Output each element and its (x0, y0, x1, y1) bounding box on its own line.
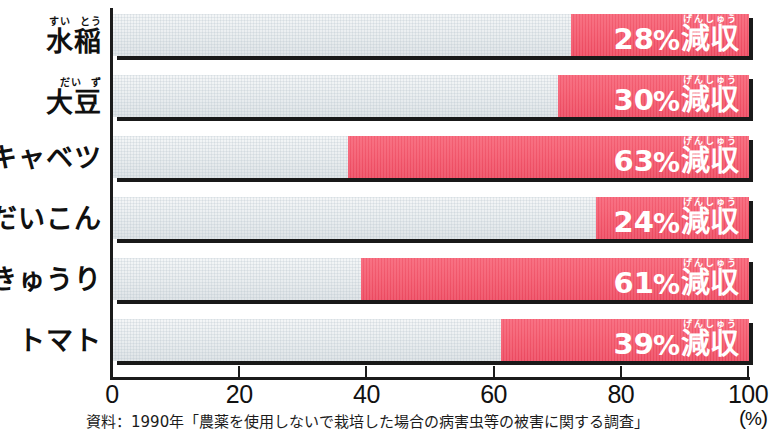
bar-row: すいとう水稲28%げんしゅう減収 (0, 14, 773, 56)
bar-value-suffix-text: 減収 (681, 208, 739, 237)
x-axis-tick (620, 366, 622, 378)
bar-value-label: 28%げんしゅう減収 (614, 15, 739, 54)
bar-fill: 24%げんしゅう減収 (596, 197, 749, 239)
bar-fill: 39%げんしゅう減収 (501, 319, 749, 361)
bar-fill: 61%げんしゅう減収 (361, 258, 749, 300)
category-label: だいこん (0, 205, 102, 232)
bar-value-suffix-text: 減収 (681, 330, 739, 359)
bar-track: 28%げんしゅう減収 (113, 14, 749, 56)
x-axis-tick (493, 366, 495, 378)
category-label: だいず大豆 (0, 77, 102, 116)
bar-track: 61%げんしゅう減収 (113, 258, 749, 300)
bar-chart: すいとう水稲28%げんしゅう減収だいず大豆30%げんしゅう減収キャベツ63%げん… (0, 0, 773, 430)
x-axis-tick (747, 366, 749, 378)
bar-row: キャベツ63%げんしゅう減収 (0, 136, 773, 178)
bar-value-percent-sign: % (653, 149, 680, 176)
bar-value-suffix-text: 減収 (681, 25, 739, 54)
category-label: すいとう水稲 (0, 16, 102, 55)
bar-value-number: 63 (614, 147, 654, 176)
category-label-text: 水稲 (46, 26, 102, 57)
bar-value-suffix-group: げんしゅう減収 (681, 320, 739, 359)
bar-value-suffix-group: げんしゅう減収 (681, 259, 739, 298)
x-axis-line (110, 377, 750, 380)
bar-row: きゅうり61%げんしゅう減収 (0, 258, 773, 300)
category-label-text: トマト (18, 325, 102, 356)
bar-value-suffix-group: げんしゅう減収 (681, 76, 739, 115)
x-axis-tick-label: 40 (353, 380, 380, 409)
bar-fill: 28%げんしゅう減収 (571, 14, 749, 56)
bar-value-number: 61 (614, 269, 654, 298)
bar-value-label: 30%げんしゅう減収 (614, 76, 739, 115)
bar-value-label: 24%げんしゅう減収 (614, 198, 739, 237)
bar-row: だいず大豆30%げんしゅう減収 (0, 75, 773, 117)
bar-value-suffix-text: 減収 (681, 86, 739, 115)
bar-value-percent-sign: % (653, 210, 680, 237)
bar-track: 24%げんしゅう減収 (113, 197, 749, 239)
bar-value-suffix-text: 減収 (681, 147, 739, 176)
bar-value-suffix-group: げんしゅう減収 (681, 15, 739, 54)
bar-value-label: 63%げんしゅう減収 (614, 137, 739, 176)
bar-value-label: 39%げんしゅう減収 (614, 320, 739, 359)
x-axis-tick-label: 100 (728, 380, 768, 409)
bar-fill: 63%げんしゅう減収 (348, 136, 749, 178)
x-axis-unit-label: (%) (739, 406, 767, 430)
source-note: 資料：1990年「農薬を使用しないで栽培した場合の病害虫等の被害に関する調査」 (86, 410, 649, 430)
x-axis-tick (365, 366, 367, 378)
bar-value-number: 28 (614, 25, 654, 54)
category-label-text: きゅうり (0, 264, 102, 295)
bar-value-number: 30 (614, 86, 654, 115)
bar-value-suffix-group: げんしゅう減収 (681, 198, 739, 237)
x-axis-tick-label: 20 (226, 380, 253, 409)
x-axis-tick-label: 60 (480, 380, 507, 409)
bar-value-suffix-text: 減収 (681, 269, 739, 298)
x-axis-tick-label: 80 (607, 380, 634, 409)
category-label: キャベツ (0, 144, 102, 171)
bar-value-number: 24 (614, 208, 654, 237)
bar-value-label: 61%げんしゅう減収 (614, 259, 739, 298)
bar-value-percent-sign: % (653, 332, 680, 359)
category-label: トマト (0, 327, 102, 354)
bar-fill: 30%げんしゅう減収 (558, 75, 749, 117)
unit-paren-close: ) (761, 406, 767, 429)
bar-row: トマト39%げんしゅう減収 (0, 319, 773, 361)
bar-row: だいこん24%げんしゅう減収 (0, 197, 773, 239)
bar-track: 39%げんしゅう減収 (113, 319, 749, 361)
bar-value-suffix-group: げんしゅう減収 (681, 137, 739, 176)
category-label-text: だいこん (0, 203, 102, 234)
unit-percent: % (745, 408, 761, 429)
bar-track: 63%げんしゅう減収 (113, 136, 749, 178)
bar-value-percent-sign: % (653, 88, 680, 115)
bar-value-number: 39 (614, 330, 654, 359)
x-axis-tick-label: 0 (105, 380, 118, 409)
bar-value-percent-sign: % (653, 271, 680, 298)
category-label: きゅうり (0, 266, 102, 293)
category-label-text: キャベツ (0, 142, 102, 173)
x-axis-tick (238, 366, 240, 378)
category-label-text: 大豆 (46, 87, 102, 118)
bar-value-percent-sign: % (653, 27, 680, 54)
bar-track: 30%げんしゅう減収 (113, 75, 749, 117)
